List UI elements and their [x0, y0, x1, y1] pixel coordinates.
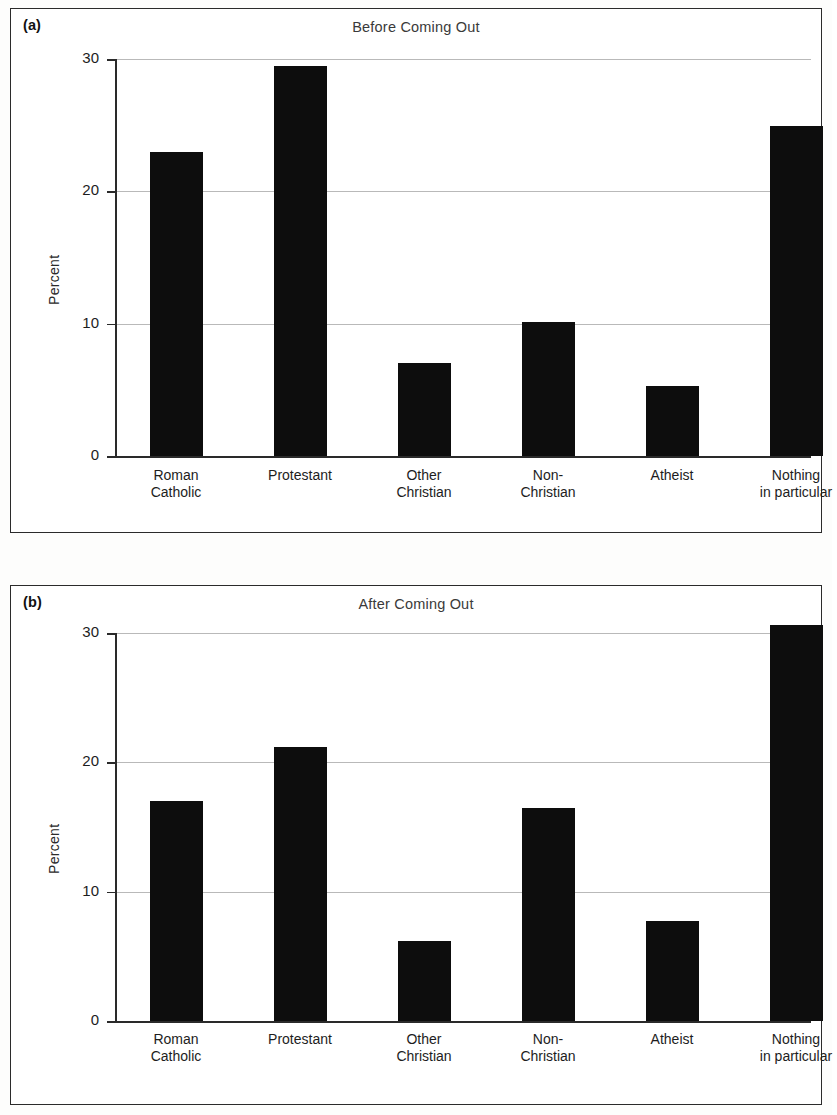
x-axis-category-label: OtherChristian	[362, 1031, 486, 1065]
plot-area-b: Percent3020100RomanCatholicProtestantOth…	[11, 586, 821, 1104]
bar	[646, 921, 699, 1021]
category-label-line1: Other	[362, 467, 486, 484]
gridline	[116, 892, 811, 893]
bar	[398, 941, 451, 1021]
bar	[770, 625, 823, 1021]
category-label-line1: Nothing	[734, 467, 837, 484]
gridline	[116, 59, 811, 60]
category-label-line1: Protestant	[238, 1031, 362, 1048]
category-label-line1: Roman	[114, 467, 238, 484]
x-axis-category-label: Non-Christian	[486, 467, 610, 501]
y-axis-title: Percent	[46, 255, 62, 305]
category-label-line1: Non-	[486, 1031, 610, 1048]
y-tick-mark	[107, 892, 115, 894]
gridline	[116, 191, 811, 192]
y-tick-mark	[107, 324, 115, 326]
x-axis-line	[107, 1021, 811, 1023]
x-axis-category-label: Non-Christian	[486, 1031, 610, 1065]
y-axis-line	[115, 59, 117, 457]
y-tick-label: 0	[61, 446, 99, 463]
category-label-line2: in particular	[734, 484, 837, 501]
x-axis-category-label: Nothingin particular	[734, 1031, 837, 1065]
y-tick-mark	[107, 633, 115, 635]
x-axis-line	[107, 456, 811, 458]
x-axis-category-label: OtherChristian	[362, 467, 486, 501]
category-label-line2: in particular	[734, 1048, 837, 1065]
category-label-line2: Christian	[362, 484, 486, 501]
x-axis-category-label: RomanCatholic	[114, 1031, 238, 1065]
y-tick-label: 0	[61, 1011, 99, 1028]
gridline	[116, 324, 811, 325]
bar	[150, 801, 203, 1021]
bar	[274, 747, 327, 1021]
gridline	[116, 633, 811, 634]
x-axis-category-label: Protestant	[238, 1031, 362, 1048]
y-tick-label: 20	[61, 752, 99, 769]
category-label-line1: Atheist	[610, 1031, 734, 1048]
y-tick-mark	[107, 59, 115, 61]
y-tick-label: 10	[61, 882, 99, 899]
x-axis-category-label: RomanCatholic	[114, 467, 238, 501]
y-tick-mark	[107, 191, 115, 193]
category-label-line1: Nothing	[734, 1031, 837, 1048]
category-label-line1: Protestant	[238, 467, 362, 484]
category-label-line1: Non-	[486, 467, 610, 484]
y-tick-mark	[107, 762, 115, 764]
y-tick-label: 20	[61, 181, 99, 198]
plot-area-a: Percent3020100RomanCatholicProtestantOth…	[11, 9, 821, 532]
chart-panel-b: (b) After Coming Out Percent3020100Roman…	[10, 585, 822, 1105]
category-label-line1: Atheist	[610, 467, 734, 484]
bar	[646, 386, 699, 456]
y-tick-label: 30	[61, 49, 99, 66]
x-axis-category-label: Atheist	[610, 467, 734, 484]
chart-panel-a: (a) Before Coming Out Percent3020100Roma…	[10, 8, 822, 533]
bar	[150, 152, 203, 456]
plot-inner	[116, 633, 811, 1021]
bar	[398, 363, 451, 456]
bar	[274, 66, 327, 456]
x-axis-category-label: Protestant	[238, 467, 362, 484]
bar	[522, 322, 575, 456]
category-label-line2: Catholic	[114, 484, 238, 501]
y-axis-line	[115, 633, 117, 1022]
plot-inner	[116, 59, 811, 456]
category-label-line1: Other	[362, 1031, 486, 1048]
gridline	[116, 762, 811, 763]
bar	[770, 126, 823, 456]
y-tick-label: 30	[61, 623, 99, 640]
category-label-line2: Catholic	[114, 1048, 238, 1065]
x-axis-category-label: Nothingin particular	[734, 467, 837, 501]
bar	[522, 808, 575, 1021]
category-label-line2: Christian	[362, 1048, 486, 1065]
category-label-line1: Roman	[114, 1031, 238, 1048]
y-axis-title: Percent	[46, 823, 62, 873]
category-label-line2: Christian	[486, 484, 610, 501]
x-axis-category-label: Atheist	[610, 1031, 734, 1048]
y-tick-label: 10	[61, 314, 99, 331]
category-label-line2: Christian	[486, 1048, 610, 1065]
